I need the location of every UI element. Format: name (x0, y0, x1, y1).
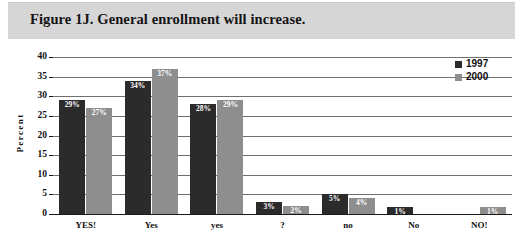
bar-1997-Yes: 34% (125, 81, 151, 214)
bar-value-label: 1% (480, 208, 506, 216)
y-axis-tick-label: 15 (0, 150, 47, 160)
gridline (53, 155, 512, 156)
bar-value-label: 28% (190, 105, 216, 113)
gridline (53, 175, 512, 176)
y-axis-tick-label: 40 (0, 52, 47, 62)
legend-label: 1997 (466, 59, 488, 69)
y-axis-tick-label: 5 (0, 189, 47, 199)
bar-2000-YES!: 27% (86, 108, 112, 214)
gridline (53, 77, 512, 78)
gridline (53, 116, 512, 117)
legend-item-2000: 2000 (455, 71, 515, 83)
page-title: Figure 1J. General enrollment will incre… (30, 11, 305, 28)
y-axis-tick-label: 30 (0, 91, 47, 101)
bar-1997-no: 5% (322, 194, 348, 214)
figure-title-banner: Figure 1J. General enrollment will incre… (8, 2, 515, 39)
bar-value-label: 29% (217, 101, 243, 109)
legend-swatch-icon (455, 61, 462, 68)
bar-value-label: 29% (59, 101, 85, 109)
bar-value-label: 27% (86, 109, 112, 117)
bar-value-label: 2% (283, 207, 309, 215)
bar-chart: Percent 0510152025303540 29%27%34%37%28%… (0, 40, 523, 251)
bar-value-label: 1% (387, 208, 413, 216)
bar-2000-yes: 29% (217, 100, 243, 214)
chart-legend: 19972000 (455, 58, 515, 84)
gridline (53, 194, 512, 195)
legend-item-1997: 1997 (455, 58, 515, 70)
bar-1997-?: 3% (256, 202, 282, 214)
bar-value-label: 3% (256, 203, 282, 211)
y-axis-tick-label: 0 (0, 209, 47, 219)
gridline (53, 96, 512, 97)
bar-value-label: 37% (152, 70, 178, 78)
y-axis-tick-label: 35 (0, 72, 47, 82)
bar-1997-yes: 28% (190, 104, 216, 214)
figure-panel: Figure 1J. General enrollment will incre… (0, 0, 523, 251)
plot-area: 29%27%34%37%28%29%3%2%5%4%1%1% (53, 57, 512, 214)
y-axis-tick-label: 25 (0, 111, 47, 121)
y-axis-tick-label: 10 (0, 170, 47, 180)
bar-value-label: 34% (125, 82, 151, 90)
bar-1997-YES!: 29% (59, 100, 85, 214)
x-axis-label-NO: NO! (439, 220, 519, 230)
legend-swatch-icon (455, 74, 462, 81)
bar-2000-?: 2% (283, 206, 309, 214)
gridline (53, 136, 512, 137)
legend-label: 2000 (466, 72, 488, 82)
bar-1997-No: 1% (387, 207, 413, 214)
bar-2000-NO!: 1% (480, 207, 506, 214)
bar-2000-no: 4% (349, 198, 375, 214)
bar-value-label: 5% (322, 195, 348, 203)
bar-value-label: 4% (349, 199, 375, 207)
bar-2000-Yes: 37% (152, 69, 178, 214)
y-axis-tick-label: 20 (0, 131, 47, 141)
gridline (53, 57, 512, 58)
